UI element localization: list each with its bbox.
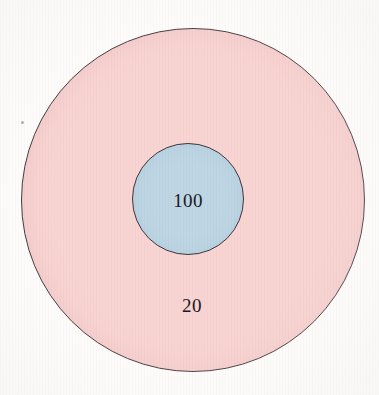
scan-speck-artifact [21, 121, 24, 124]
inner-circle-label: 100 [132, 191, 244, 210]
outer-circle-label: 20 [150, 296, 234, 315]
diagram-canvas: 100 20 [0, 0, 379, 395]
